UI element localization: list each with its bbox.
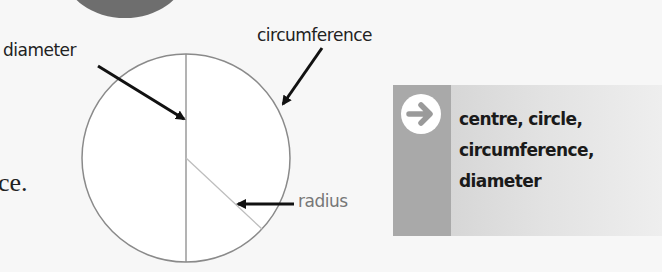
key-words-list: centre, circle, circumference, diameter: [459, 104, 594, 197]
circumference-arrow-icon: [283, 48, 322, 104]
label-diameter: diameter: [3, 42, 76, 59]
key-word-line: centre, circle,: [459, 104, 594, 135]
label-circumference: circumference: [257, 27, 372, 44]
key-word-line: circumference,: [459, 135, 594, 166]
key-word-line: diameter: [459, 166, 594, 197]
key-words-box: centre, circle, circumference, diameter: [393, 85, 662, 236]
arrow-right-circle-icon: [401, 94, 441, 134]
label-radius: radius: [298, 193, 348, 210]
